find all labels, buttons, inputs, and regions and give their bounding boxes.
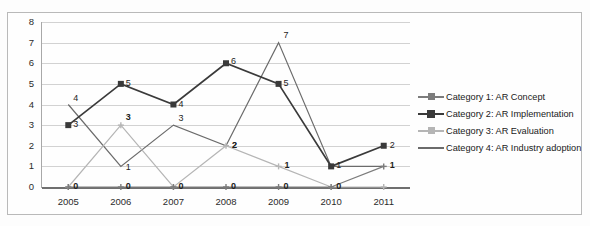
y-tick-label: 8 — [20, 17, 34, 26]
gridline — [42, 63, 410, 64]
y-tick-label: 4 — [20, 100, 34, 109]
data-label: 0 — [284, 182, 289, 191]
x-tick-label: 2006 — [98, 196, 144, 207]
data-label: 4 — [178, 100, 183, 109]
data-label: 1 — [285, 161, 290, 170]
data-label: 1 — [390, 161, 395, 170]
data-label: 0 — [231, 182, 236, 191]
chart-legend: Category 1: AR ConceptCategory 2: AR Imp… — [418, 88, 576, 156]
data-label: 5 — [126, 79, 131, 88]
data-label: 3 — [73, 120, 78, 129]
data-label: 0 — [336, 182, 341, 191]
y-tick-label: 7 — [20, 38, 34, 47]
legend-item: Category 4: AR Industry adoption — [418, 139, 576, 156]
x-tick-label: 2010 — [308, 196, 354, 207]
data-label: 1 — [126, 163, 131, 172]
gridline — [42, 187, 410, 189]
legend-label: Category 1: AR Concept — [446, 92, 545, 102]
x-tick-label: 2009 — [256, 196, 302, 207]
y-tick-label: 2 — [20, 141, 34, 150]
legend-marker-icon — [418, 142, 444, 154]
legend-item: Category 3: AR Evaluation — [418, 122, 576, 139]
chart-screenshot: 012345678 2005200620072008200920102011 1… — [0, 0, 590, 226]
x-tick-label: 2007 — [150, 196, 196, 207]
data-label: 2 — [390, 141, 395, 150]
y-tick-label: 0 — [20, 182, 34, 191]
y-tick-label: 6 — [20, 58, 34, 67]
legend-item: Category 2: AR Implementation — [418, 105, 576, 122]
gridline — [42, 105, 410, 106]
data-label: 7 — [284, 31, 289, 40]
legend-item: Category 1: AR Concept — [418, 88, 576, 105]
legend-label: Category 2: AR Implementation — [446, 109, 574, 119]
data-label: 0 — [178, 182, 183, 191]
gridline — [42, 84, 410, 85]
legend-marker-icon — [418, 91, 444, 103]
data-label: 5 — [284, 79, 289, 88]
gridline — [42, 22, 410, 23]
data-label: 3 — [178, 114, 183, 123]
data-label: 1 — [336, 161, 341, 170]
legend-label: Category 4: AR Industry adoption — [446, 143, 581, 153]
legend-marker-icon — [418, 125, 444, 137]
legend-marker-icon — [418, 108, 444, 120]
gridline — [42, 166, 410, 167]
data-label: 6 — [231, 57, 236, 66]
gridline — [42, 43, 410, 44]
x-tick-label: 2008 — [203, 196, 249, 207]
data-label: 0 — [73, 182, 78, 191]
data-label: 0 — [126, 182, 131, 191]
legend-label: Category 3: AR Evaluation — [446, 126, 554, 136]
data-label: 3 — [126, 113, 131, 122]
y-tick-label: 1 — [20, 161, 34, 170]
data-label: 2 — [232, 141, 237, 150]
y-axis — [41, 22, 42, 188]
x-tick-label: 2011 — [361, 196, 407, 207]
gridline — [42, 125, 410, 126]
x-tick-label: 2005 — [45, 196, 91, 207]
y-tick-label: 5 — [20, 79, 34, 88]
y-tick-label: 3 — [20, 120, 34, 129]
data-label: 4 — [73, 94, 78, 103]
gridline — [42, 146, 410, 147]
